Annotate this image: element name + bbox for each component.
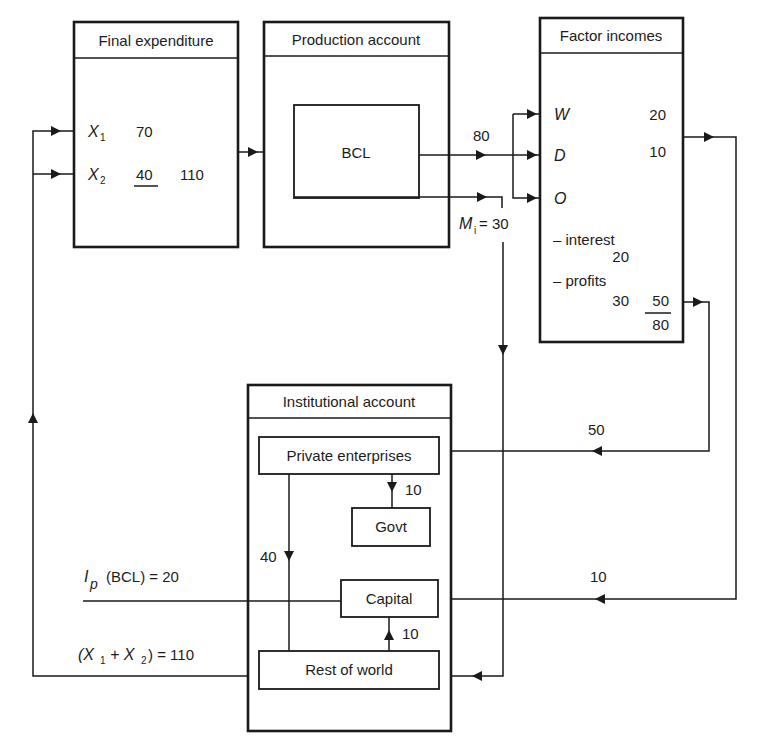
row-to-capital-label: 10 — [402, 625, 419, 642]
imports-label: M — [459, 215, 473, 232]
institutional-account-box: Institutional account 40 10 10 Private e… — [248, 385, 451, 731]
final-expenditure-total: 110 — [180, 166, 204, 183]
arrow-down-icon — [498, 345, 508, 355]
factor-incomes-title: Factor incomes — [560, 27, 663, 44]
investment-subscript: p — [89, 576, 98, 592]
capital-label: Capital — [366, 590, 413, 607]
x2-value: 40 — [136, 166, 153, 183]
x2-label: X — [87, 166, 100, 183]
flow-to-capital-label: 10 — [590, 568, 607, 585]
bcl-label: BCL — [341, 144, 370, 161]
arrow-right-icon — [248, 147, 258, 157]
investment-value: (BCL) = 20 — [106, 568, 179, 585]
x1-value: 70 — [136, 123, 153, 140]
flow-80-label: 80 — [473, 127, 490, 144]
exports-open: (X — [78, 646, 95, 663]
arrow-left-icon — [592, 446, 602, 456]
x2-subscript: 2 — [100, 175, 106, 186]
imports-value: = 30 — [479, 215, 509, 232]
pe-to-row-label: 40 — [260, 548, 277, 565]
arrow-left-icon — [472, 671, 482, 681]
pe-to-govt-label: 10 — [405, 481, 422, 498]
circular-flow-diagram: Final expenditure X 1 70 X 2 40 110 Prod… — [0, 0, 761, 756]
arrow-right-icon — [704, 132, 714, 142]
arrow-up-icon — [28, 413, 38, 423]
final-expenditure-title: Final expenditure — [98, 32, 213, 49]
rest-of-world-label: Rest of world — [305, 661, 393, 678]
production-account-box: Production account BCL — [264, 22, 449, 247]
x1-label: X — [87, 123, 100, 140]
exports-subscript-2: 2 — [141, 655, 147, 666]
arrow-right-icon — [51, 126, 61, 136]
profits-value: 30 — [612, 292, 629, 309]
exports-plus: + X — [110, 646, 136, 663]
arrow-right-icon — [476, 150, 486, 160]
flow-to-pe-label: 50 — [588, 421, 605, 438]
exports-value: ) = 110 — [148, 646, 194, 663]
imports-subscript: i — [474, 225, 476, 236]
wages-label: W — [554, 106, 571, 123]
other-income-label: O — [554, 190, 566, 207]
exports-subscript-1: 1 — [100, 655, 106, 666]
arrow-right-icon — [527, 150, 537, 160]
arrow-right-icon — [527, 109, 537, 119]
factor-incomes-box: Factor incomes W 20 D 10 O – interest 20… — [540, 18, 683, 342]
factor-incomes-grand-total: 80 — [652, 316, 669, 333]
govt-label: Govt — [375, 518, 408, 535]
interest-label: – interest — [553, 231, 616, 248]
interest-value: 20 — [612, 248, 629, 265]
wages-value: 20 — [649, 106, 666, 123]
arrow-right-icon — [527, 193, 537, 203]
depreciation-label: D — [554, 147, 566, 164]
other-income-total: 50 — [652, 292, 669, 309]
private-enterprises-label: Private enterprises — [286, 447, 411, 464]
production-account-title: Production account — [292, 31, 421, 48]
final-expenditure-box: Final expenditure X 1 70 X 2 40 110 — [74, 22, 238, 247]
arrow-right-icon — [51, 169, 61, 179]
exports-label-group: (X 1 + X 2 ) = 110 — [78, 646, 194, 666]
profits-label: – profits — [553, 272, 606, 289]
arrow-right-icon — [693, 297, 703, 307]
investment-label: I — [84, 568, 89, 585]
institutional-account-title: Institutional account — [283, 393, 416, 410]
arrow-left-icon — [595, 594, 605, 604]
x1-subscript: 1 — [100, 132, 106, 143]
arrow-right-icon — [477, 192, 487, 202]
depreciation-value: 10 — [649, 143, 666, 160]
